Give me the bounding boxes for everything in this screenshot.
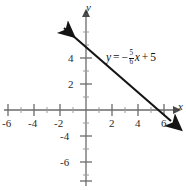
- x-tick-label-6: 6: [161, 118, 167, 129]
- equation-equals: =: [113, 51, 120, 63]
- equation-intercept: 5: [150, 51, 156, 63]
- y-tick-label-4: 4: [68, 53, 74, 64]
- plotted-line: [64, 28, 171, 121]
- equation-x-var: x: [135, 51, 140, 63]
- x-tick-label-neg6: -6: [2, 118, 11, 129]
- x-axis-label: x: [178, 101, 183, 112]
- y-tick-label-neg4: -4: [60, 131, 69, 142]
- equation-annotation: y=−56x+5: [106, 50, 156, 66]
- y-tick-label-neg6: -6: [60, 157, 69, 168]
- x-tick-label-neg2: -2: [54, 118, 63, 129]
- x-tick-label-neg4: -4: [28, 118, 37, 129]
- x-tick-label-2: 2: [109, 118, 115, 129]
- equation-fraction: 56: [129, 50, 135, 66]
- equation-lhs: y: [106, 51, 111, 63]
- fraction-numerator: 5: [129, 50, 135, 58]
- equation-minus: −: [122, 51, 129, 63]
- coordinate-plane: [0, 0, 186, 190]
- equation-plus: +: [142, 51, 149, 63]
- fraction-denominator: 6: [129, 58, 135, 67]
- graph-figure: -6 -4 -2 2 4 6 4 2 -4 -6 y x y=−56x+5: [0, 0, 186, 190]
- y-tick-label-2: 2: [68, 79, 74, 90]
- y-axis-label: y: [86, 2, 91, 13]
- x-tick-label-4: 4: [135, 118, 141, 129]
